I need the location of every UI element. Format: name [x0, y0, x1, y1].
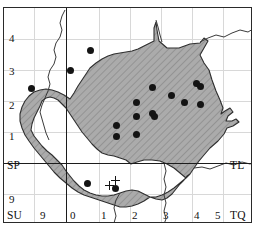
record-dot: [84, 180, 91, 187]
grid-line-major-vertical: [66, 8, 67, 222]
x-tick-label-3: 3: [163, 210, 169, 221]
record-dot: [151, 113, 158, 120]
grid-square-label-tq: TQ: [230, 210, 246, 222]
grid-square-label-tl: TL: [230, 160, 244, 172]
x-tick-label-left-9: 9: [40, 210, 46, 221]
x-tick-label-0: 0: [70, 210, 76, 221]
x-tick-label-2: 2: [132, 210, 138, 221]
record-dot: [87, 47, 94, 54]
record-dot: [113, 133, 120, 140]
y-tick-label-4: 4: [9, 33, 15, 44]
record-dot: [133, 131, 140, 138]
x-tick-label-5: 5: [215, 210, 221, 221]
record-dot: [197, 83, 204, 90]
grid-square-label-sp: SP: [7, 160, 20, 172]
y-tick-label-3: 3: [9, 66, 15, 77]
map-frame: [3, 7, 252, 223]
region-shape: [4, 8, 251, 222]
record-dot: [28, 85, 35, 92]
plot-surface: [4, 8, 251, 222]
record-dot: [149, 84, 156, 91]
y-tick-label-9: 9: [9, 194, 15, 205]
record-cross: [105, 181, 114, 190]
study-area-polygon: [20, 22, 239, 207]
record-dot: [133, 113, 140, 120]
record-dot: [67, 67, 74, 74]
grid-line-major-horizontal: [4, 163, 251, 164]
x-tick-label-4: 4: [194, 210, 200, 221]
record-dot: [197, 101, 204, 108]
record-dot: [133, 99, 140, 106]
grid-square-label-su: SU: [7, 210, 22, 222]
x-tick-label-1: 1: [101, 210, 107, 221]
record-dot: [168, 92, 175, 99]
y-tick-label-2: 2: [9, 100, 15, 111]
distribution-map-figure: 4 3 2 1 9 SP TL SU TQ 9 0 1 2 3 4 5: [0, 0, 256, 228]
record-dot: [181, 99, 188, 106]
record-dot: [113, 122, 120, 129]
y-tick-label-1: 1: [9, 131, 15, 142]
